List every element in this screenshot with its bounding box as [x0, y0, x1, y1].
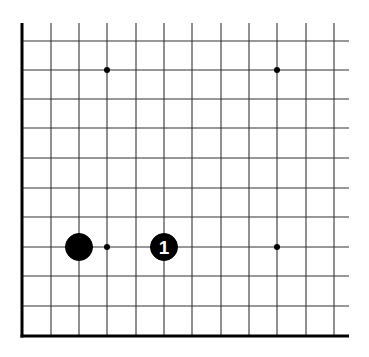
board-grid — [21, 23, 350, 338]
star-point-icon — [104, 67, 110, 73]
star-point-icon — [104, 244, 110, 250]
go-board: 1 — [0, 0, 369, 357]
stone-move-number: 1 — [159, 237, 170, 258]
stone-icon — [66, 234, 93, 261]
stone-black — [66, 234, 93, 261]
stone-black-1: 1 — [151, 234, 178, 261]
star-point-icon — [274, 67, 280, 73]
star-point-icon — [274, 244, 280, 250]
